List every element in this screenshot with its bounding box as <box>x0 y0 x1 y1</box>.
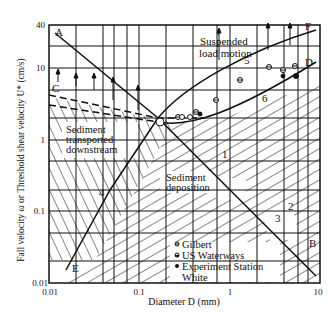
label-downstream: downstream <box>66 144 117 155</box>
label-deposition: deposition <box>166 182 210 193</box>
point-e: E <box>72 262 79 274</box>
region-2: 2 <box>288 200 294 212</box>
region-3: 3 <box>275 212 281 224</box>
y-axis-ticks: 40 10 1 0.1 0.01 <box>32 20 48 288</box>
x-tick-1: 1 <box>228 287 233 297</box>
x-tick-0.1: 0.1 <box>133 287 144 297</box>
point-f: F <box>305 20 311 32</box>
y-tick-40: 40 <box>36 20 46 30</box>
legend-us-waterways: US Waterways <box>182 250 244 261</box>
y-tick-0.1: 0.1 <box>34 206 45 216</box>
y-tick-1: 1 <box>41 135 46 145</box>
legend-experiment-station: Experiment Station <box>182 261 264 272</box>
curve-5-label: 5 <box>244 54 250 66</box>
point-b: B <box>309 237 316 249</box>
point-d: D <box>305 56 313 68</box>
point-c: C <box>52 82 59 94</box>
x-tick-10: 10 <box>314 287 324 297</box>
region-1: 1 <box>222 148 228 160</box>
y-tick-10: 10 <box>36 63 46 73</box>
label-suspended: Suspended <box>200 35 248 47</box>
x-axis-label: Diameter D (mm) <box>148 296 220 308</box>
y-axis-label: Fall velocity ω or Threshold shear veloc… <box>16 58 27 261</box>
curve-6-label: 6 <box>262 92 268 104</box>
x-tick-0.01: 0.01 <box>42 287 58 297</box>
point-a: A <box>55 26 63 38</box>
legend-gilbert: Gilbert <box>182 239 212 250</box>
legend-white: White <box>182 272 208 283</box>
region-4: 4 <box>99 186 105 198</box>
sediment-threshold-chart: Suspended load motion Sediment transport… <box>0 0 336 319</box>
